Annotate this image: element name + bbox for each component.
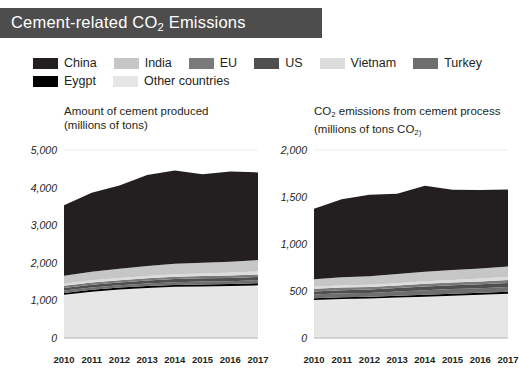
y-tick-label: 1,000 [262,238,307,250]
legend-row-2: EygptOther countries [33,72,503,90]
legend-item-eu[interactable]: EU [189,56,237,70]
y-tick-label: 5,000 [12,144,57,156]
legend-label-china: China [64,56,97,70]
legend-swatch-india [114,58,139,69]
chart-subtitle-right-prefix: (millions of tons CO [314,123,414,135]
x-tick-label: 2013 [387,354,408,365]
x-tick-label: 2010 [303,354,324,365]
x-tick-label: 2013 [137,354,158,365]
chart-subtitle-right-subscript: 2) [414,128,421,137]
plot-area-right: 05001,0001,5002,000 [262,142,512,352]
page-title: Cement-related CO2 Emissions [0,13,246,33]
y-tick-label: 1,000 [12,294,57,306]
legend-item-other-countries[interactable]: Other countries [113,74,229,88]
legend-item-us[interactable]: US [254,56,302,70]
y-tick-label: 4,000 [12,182,57,194]
chart-subtitle-right: (millions of tons CO2) [314,122,514,140]
chart-panel-co2-emissions: CO2 emissions from cement process (milli… [262,104,512,390]
x-tick-label: 2011 [331,354,352,365]
page-title-suffix: Emissions [164,13,246,31]
area-series-china [64,170,258,275]
y-tick-label: 2,000 [12,257,57,269]
legend-label-us: US [285,56,302,70]
page-title-prefix: Cement-related CO [11,13,157,31]
stacked-area-chart [12,142,262,352]
x-tick-label: 2011 [81,354,102,365]
area-series-other-countries [64,285,258,338]
legend-label-vietnam: Vietnam [351,56,397,70]
chart-legend: ChinaIndiaEUUSVietnamTurkey EygptOther c… [33,54,503,90]
area-series-china [314,186,508,280]
legend-row-1: ChinaIndiaEUUSVietnamTurkey [33,54,503,72]
legend-label-turkey: Turkey [444,56,482,70]
legend-label-eu: EU [220,56,237,70]
header-bar: Cement-related CO2 Emissions [0,8,322,38]
legend-swatch-vietnam [320,58,345,69]
x-tick-label: 2014 [164,354,185,365]
chart-title-right: CO2 emissions from cement process (milli… [314,104,514,140]
chart-panel-cement-produced: Amount of cement produced (millions of t… [12,104,262,390]
chart-title-right-prefix: CO [314,105,331,117]
legend-swatch-turkey [413,58,438,69]
legend-swatch-other-countries [113,76,138,87]
legend-label-other-countries: Other countries [144,74,229,88]
x-tick-label: 2014 [414,354,435,365]
y-tick-label: 1,500 [262,191,307,203]
x-tick-label: 2016 [470,354,491,365]
legend-swatch-us [254,58,279,69]
y-tick-label: 500 [262,285,307,297]
x-tick-label: 2010 [53,354,74,365]
legend-item-turkey[interactable]: Turkey [413,56,482,70]
chart-title-left-line1: Amount of cement produced [64,105,208,117]
chart-title-left-line2: (millions of tons) [64,118,264,132]
legend-item-india[interactable]: India [114,56,172,70]
chart-title-right-suffix: emissions from cement process [336,105,501,117]
y-tick-label: 0 [262,332,307,344]
x-tick-label: 2015 [442,354,463,365]
legend-item-vietnam[interactable]: Vietnam [320,56,397,70]
charts-container: Amount of cement produced (millions of t… [0,104,519,390]
legend-swatch-eygpt [33,76,58,87]
x-tick-label: 2017 [497,354,518,365]
area-series-other-countries [314,294,508,338]
legend-swatch-china [33,58,58,69]
x-tick-label: 2012 [359,354,380,365]
y-tick-label: 2,000 [262,144,307,156]
y-tick-label: 0 [12,332,57,344]
x-tick-label: 2015 [192,354,213,365]
x-axis-left: 20102011201220132014201520162017 [12,354,262,370]
chart-title-left: Amount of cement produced (millions of t… [64,104,264,132]
x-axis-right: 20102011201220132014201520162017 [262,354,512,370]
legend-label-eygpt: Eygpt [64,74,96,88]
legend-item-china[interactable]: China [33,56,97,70]
y-tick-label: 3,000 [12,219,57,231]
plot-area-left: 01,0002,0003,0004,0005,000 [12,142,262,352]
legend-swatch-eu [189,58,214,69]
legend-label-india: India [145,56,172,70]
x-tick-label: 2012 [109,354,130,365]
legend-item-eygpt[interactable]: Eygpt [33,74,96,88]
x-tick-label: 2016 [220,354,241,365]
